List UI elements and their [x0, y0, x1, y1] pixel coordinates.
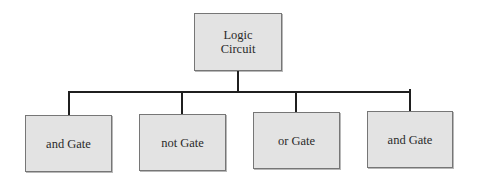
- horizontal-bus-connector: [68, 91, 411, 93]
- root-node-label: Logic Circuit: [221, 28, 256, 56]
- child-node-label: not Gate: [161, 136, 204, 150]
- logic-circuit-tree-diagram: Logic Circuit and Gate not Gate or Gate …: [0, 0, 479, 180]
- child-node-label: and Gate: [46, 137, 91, 151]
- root-node-logic-circuit: Logic Circuit: [194, 13, 282, 71]
- child-node-not-gate: not Gate: [139, 114, 226, 171]
- child-3-connector: [295, 91, 297, 113]
- child-node-label: and Gate: [388, 133, 433, 147]
- child-4-connector: [409, 89, 411, 111]
- child-2-connector: [181, 91, 183, 114]
- child-1-connector: [68, 91, 70, 115]
- root-stem-connector: [237, 71, 239, 92]
- child-node-or-gate: or Gate: [253, 112, 340, 169]
- child-node-label: or Gate: [278, 134, 315, 148]
- child-node-and-gate-1: and Gate: [25, 115, 112, 172]
- child-node-and-gate-2: and Gate: [367, 111, 453, 168]
- root-label-line-1: Logic: [221, 28, 256, 42]
- root-label-line-2: Circuit: [221, 42, 256, 56]
